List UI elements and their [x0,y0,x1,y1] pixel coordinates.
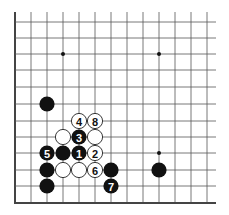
black-stone [39,162,54,177]
star-point [61,52,65,56]
white-stone [55,162,70,177]
black-stone [39,178,54,193]
black-stone [39,96,54,111]
move-number: 2 [92,148,98,160]
move-number: 3 [76,132,82,144]
black-stone [103,162,118,177]
move-number: 5 [44,148,50,160]
black-stone [151,162,166,177]
go-board: 48351267 [0,0,229,215]
move-number: 1 [76,148,82,160]
white-stone [55,129,70,144]
go-board-svg: 48351267 [0,0,229,215]
star-point [157,151,161,155]
white-stone [87,129,102,144]
move-number: 7 [108,181,114,193]
star-point [157,52,161,56]
move-number: 6 [92,165,98,177]
move-number: 4 [76,116,83,128]
white-stone [71,162,86,177]
black-stone [55,145,70,160]
move-number: 8 [92,116,98,128]
